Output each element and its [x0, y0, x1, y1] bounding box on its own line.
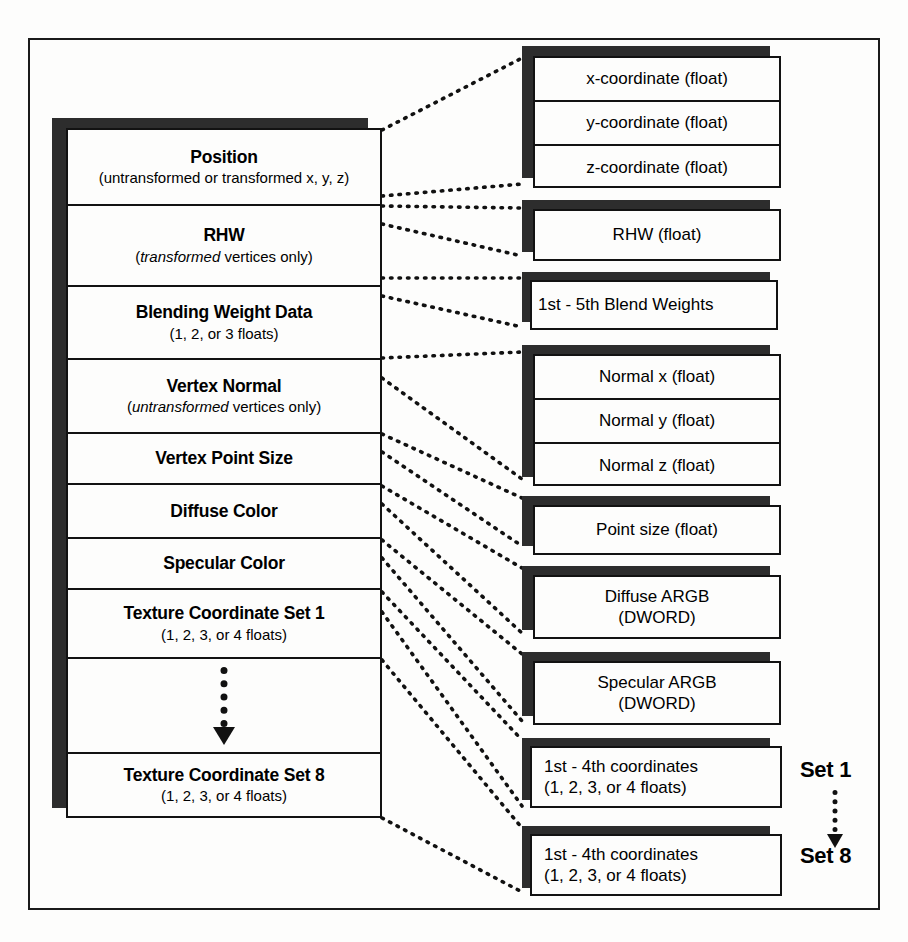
vertex-row-subtitle: (untransformed or transformed x, y, z) [99, 169, 350, 187]
vertex-column: Position (untransformed or transformed x… [66, 128, 382, 818]
texcoord-8-detail-box[interactable]: 1st - 4th coordinates (1, 2, 3, or 4 flo… [530, 834, 782, 896]
point-size-detail-label: Point size (float) [596, 519, 718, 540]
vertex-row-texture-coordinate-set-1[interactable]: Texture Coordinate Set 1 (1, 2, 3, or 4 … [68, 590, 380, 659]
vertex-row-title: Blending Weight Data [136, 302, 313, 323]
position-detail-box: x-coordinate (float) y-coordinate (float… [533, 56, 781, 188]
detail-cell-y-coordinate[interactable]: y-coordinate (float) [535, 102, 779, 146]
specular-detail-box[interactable]: Specular ARGB (DWORD) [533, 661, 781, 725]
vertex-row-texture-coordinate-set-8[interactable]: Texture Coordinate Set 8 (1, 2, 3, or 4 … [68, 754, 380, 816]
blend-detail-label: 1st - 5th Blend Weights [538, 294, 713, 315]
detail-cell-x-coordinate[interactable]: x-coordinate (float) [535, 58, 779, 102]
vertex-row-title: Vertex Point Size [155, 448, 293, 469]
point-size-detail-box[interactable]: Point size (float) [533, 505, 781, 555]
set-first-label: Set 1 [800, 757, 851, 783]
detail-cell-normal-z[interactable]: Normal z (float) [535, 444, 779, 488]
set-sequence-arrow-icon [826, 790, 844, 848]
vertex-row-vertex-normal[interactable]: Vertex Normal (untransformed vertices on… [68, 360, 380, 434]
diagram-canvas: Position (untransformed or transformed x… [0, 0, 908, 942]
rhw-detail-label: RHW (float) [613, 224, 702, 245]
texcoord-1-label-line2: (1, 2, 3, or 4 floats) [544, 777, 687, 798]
vertex-row-title: Position [190, 147, 257, 168]
texcoord-8-label-line1: 1st - 4th coordinates [544, 844, 698, 865]
detail-cell-z-coordinate[interactable]: z-coordinate (float) [535, 146, 779, 190]
vertex-row-subtitle: (1, 2, or 3 floats) [169, 325, 278, 343]
texcoord-8-label-line2: (1, 2, 3, or 4 floats) [544, 865, 687, 886]
vertex-row-ellipsis [68, 659, 380, 754]
vertex-row-vertex-point-size[interactable]: Vertex Point Size [68, 434, 380, 485]
vertex-row-subtitle: (1, 2, 3, or 4 floats) [161, 626, 287, 644]
specular-detail-label-line2: (DWORD) [618, 693, 695, 714]
vertex-row-subtitle: (transformed vertices only) [135, 248, 313, 266]
diffuse-detail-box[interactable]: Diffuse ARGB (DWORD) [533, 575, 781, 639]
vertex-row-specular-color[interactable]: Specular Color [68, 539, 380, 590]
vertex-row-rhw[interactable]: RHW (transformed vertices only) [68, 206, 380, 287]
diffuse-detail-label-line1: Diffuse ARGB [605, 586, 710, 607]
detail-cell-normal-x[interactable]: Normal x (float) [535, 356, 779, 400]
normal-detail-box: Normal x (float) Normal y (float) Normal… [533, 354, 781, 486]
rhw-detail-box[interactable]: RHW (float) [533, 209, 781, 261]
vertex-row-subtitle: (1, 2, 3, or 4 floats) [161, 787, 287, 805]
vertex-row-title: Vertex Normal [166, 376, 281, 397]
vertex-row-diffuse-color[interactable]: Diffuse Color [68, 485, 380, 539]
vertex-row-title: Texture Coordinate Set 8 [123, 765, 324, 786]
vertex-row-title: Diffuse Color [170, 501, 277, 522]
vertex-row-title: RHW [203, 225, 244, 246]
texcoord-1-label-line1: 1st - 4th coordinates [544, 756, 698, 777]
specular-detail-label-line1: Specular ARGB [597, 672, 716, 693]
vertex-row-title: Texture Coordinate Set 1 [123, 603, 324, 624]
vertex-row-blending-weight-data[interactable]: Blending Weight Data (1, 2, or 3 floats) [68, 287, 380, 360]
vertex-row-subtitle: (untransformed vertices only) [127, 398, 321, 416]
vertex-row-title: Specular Color [163, 553, 285, 574]
detail-cell-normal-y[interactable]: Normal y (float) [535, 400, 779, 444]
diffuse-detail-label-line2: (DWORD) [618, 607, 695, 628]
texcoord-1-detail-box[interactable]: 1st - 4th coordinates (1, 2, 3, or 4 flo… [530, 746, 782, 808]
sequence-arrow-icon [212, 667, 236, 745]
set-last-label: Set 8 [800, 843, 851, 869]
vertex-row-position[interactable]: Position (untransformed or transformed x… [68, 130, 380, 206]
blend-detail-box[interactable]: 1st - 5th Blend Weights [530, 280, 778, 330]
